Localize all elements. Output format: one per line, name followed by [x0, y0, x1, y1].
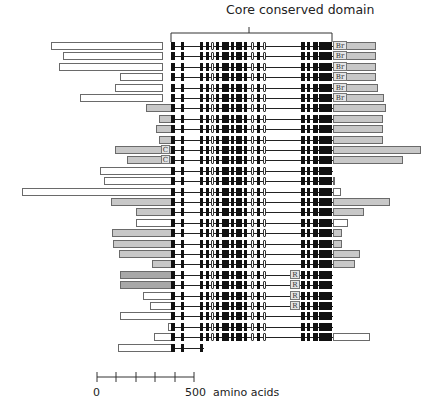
open-motif-block: [211, 136, 214, 144]
conserved-motif-block: [200, 344, 203, 352]
open-motif-block: [211, 94, 214, 102]
conserved-motif-block: [206, 136, 209, 144]
conserved-motif-block: [244, 63, 247, 71]
conserved-motif-block: [319, 73, 332, 81]
open-motif-block: [251, 167, 254, 175]
conserved-motif-block: [301, 167, 305, 175]
conserved-motif-block: [181, 146, 184, 154]
domain-tag-r: R: [290, 291, 300, 300]
n-terminal-extension: [120, 73, 163, 81]
conserved-motif-block: [181, 42, 184, 50]
conserved-motif-block: [257, 146, 260, 154]
protein-row: [0, 343, 440, 353]
open-motif-block: [251, 84, 254, 92]
open-motif-block: [251, 104, 254, 112]
open-motif-block: [211, 250, 214, 258]
conserved-motif-block: [200, 188, 203, 196]
conserved-motif-block: [216, 136, 219, 144]
conserved-motif-block: [222, 240, 229, 248]
protein-row: R: [0, 301, 440, 311]
conserved-motif-block: [236, 146, 242, 154]
conserved-motif-block: [301, 198, 305, 206]
conserved-motif-block: [200, 198, 203, 206]
open-motif-block: [211, 167, 214, 175]
conserved-motif-block: [301, 156, 305, 164]
conserved-motif-block: [206, 260, 209, 268]
conserved-motif-block: [216, 42, 219, 50]
c-terminal-extension: [333, 260, 355, 268]
conserved-motif-block: [301, 104, 305, 112]
conserved-motif-block: [236, 125, 242, 133]
conserved-motif-block: [216, 125, 219, 133]
protein-row: C: [0, 155, 440, 165]
conserved-motif-block: [216, 73, 219, 81]
conserved-motif-block: [206, 84, 209, 92]
open-motif-block: [211, 208, 214, 216]
conserved-motif-block: [171, 292, 175, 300]
conserved-motif-block: [301, 281, 305, 289]
open-motif-block: [263, 198, 266, 206]
conserved-motif-block: [236, 250, 242, 258]
protein-row: [0, 197, 440, 207]
conserved-motif-block: [231, 240, 234, 248]
protein-row: R: [0, 280, 440, 290]
c-terminal-extension: [333, 136, 383, 144]
conserved-motif-block: [313, 125, 318, 133]
open-motif-block: [251, 94, 254, 102]
open-motif-block: [211, 73, 214, 81]
conserved-motif-block: [181, 52, 184, 60]
conserved-motif-block: [231, 292, 234, 300]
protein-row: [0, 332, 440, 342]
conserved-motif-block: [236, 312, 242, 320]
conserved-motif-block: [307, 63, 310, 71]
conserved-motif-block: [313, 136, 318, 144]
conserved-motif-block: [206, 292, 209, 300]
protein-row: [0, 322, 440, 332]
conserved-motif-block: [244, 94, 247, 102]
open-motif-block: [263, 42, 266, 50]
conserved-motif-block: [307, 167, 310, 175]
open-motif-block: [251, 156, 254, 164]
conserved-motif-block: [307, 42, 310, 50]
conserved-motif-block: [236, 260, 242, 268]
conserved-motif-block: [231, 94, 234, 102]
open-motif-block: [211, 281, 214, 289]
conserved-motif-block: [313, 52, 318, 60]
gene-structure-diagram: Core conserved domain BrBrBrBrBrBrCCRRRR…: [0, 0, 440, 403]
conserved-motif-block: [222, 250, 229, 258]
conserved-motif-block: [257, 42, 260, 50]
conserved-motif-block: [171, 323, 175, 331]
protein-row: [0, 249, 440, 259]
open-motif-block: [263, 94, 266, 102]
conserved-motif-block: [171, 219, 175, 227]
protein-row: [0, 259, 440, 269]
conserved-motif-block: [301, 312, 305, 320]
conserved-motif-block: [171, 333, 175, 341]
conserved-motif-block: [236, 94, 242, 102]
open-motif-block: [251, 73, 254, 81]
conserved-motif-block: [200, 125, 203, 133]
conserved-motif-block: [200, 302, 203, 310]
conserved-motif-block: [313, 229, 318, 237]
conserved-motif-block: [181, 63, 184, 71]
conserved-motif-block: [216, 167, 219, 175]
conserved-motif-block: [307, 177, 310, 185]
open-motif-block: [263, 52, 266, 60]
open-motif-block: [211, 104, 214, 112]
conserved-motif-block: [181, 250, 184, 258]
conserved-motif-block: [181, 198, 184, 206]
conserved-motif-block: [222, 198, 229, 206]
open-motif-block: [251, 136, 254, 144]
conserved-motif-block: [301, 125, 305, 133]
conserved-motif-block: [236, 177, 242, 185]
protein-row: [0, 311, 440, 321]
conserved-motif-block: [171, 84, 175, 92]
conserved-motif-block: [301, 240, 305, 248]
conserved-motif-block: [313, 219, 318, 227]
conserved-motif-block: [231, 156, 234, 164]
open-motif-block: [211, 198, 214, 206]
conserved-motif-block: [244, 73, 247, 81]
domain-tag-br: Br: [333, 62, 347, 71]
conserved-motif-block: [206, 146, 209, 154]
n-terminal-extension: [104, 177, 172, 185]
